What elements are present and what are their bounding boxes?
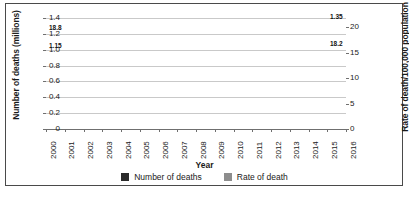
y-axis-right-tick-label: 15 — [350, 49, 376, 57]
plot-area: 18.81.151.3518.2 — [46, 18, 346, 129]
legend-label: Number of deaths — [134, 172, 202, 182]
x-axis-tick-mark — [84, 129, 85, 132]
data-label: 18.2 — [330, 40, 343, 47]
x-axis-tick-mark — [290, 129, 291, 132]
y-axis-left-tick-mark — [43, 66, 46, 67]
y-axis-right-tick-mark — [346, 104, 349, 105]
x-axis-tick-label: 2016 — [350, 141, 358, 159]
y-axis-right-tick-label: 0 — [350, 125, 376, 133]
y-axis-left-tick-label: 0.8 — [20, 62, 60, 70]
y-axis-left-tick-mark — [43, 81, 46, 82]
x-axis-tick-mark — [271, 129, 272, 132]
y-axis-right-tick-mark — [346, 53, 349, 54]
gridline — [46, 81, 346, 82]
x-axis-title: Year — [0, 160, 409, 170]
y-axis-left-tick-mark — [43, 97, 46, 98]
x-axis-tick-mark — [196, 129, 197, 132]
y-axis-right-tick-label: 5 — [350, 100, 376, 108]
x-axis-tick-label: 2011 — [256, 142, 264, 159]
data-label: 1.35 — [330, 13, 343, 20]
legend-item[interactable]: Number of deaths — [121, 172, 202, 182]
y-axis-left-tick-label: 0.6 — [20, 77, 60, 85]
y-axis-left-tick-mark — [43, 50, 46, 51]
gridline — [46, 97, 346, 98]
x-axis-tick-mark — [46, 129, 47, 132]
x-axis-tick-mark — [177, 129, 178, 132]
x-axis-tick-label: 2010 — [237, 141, 245, 159]
legend-swatch-icon — [224, 173, 232, 181]
x-axis-tick-label: 2006 — [162, 141, 170, 159]
gridline — [46, 18, 346, 19]
x-axis-tick-label: 2003 — [106, 141, 114, 159]
gridline — [46, 66, 346, 67]
x-axis-tick-mark — [234, 129, 235, 132]
chart-figure: Number of deaths (millions) Rate of deat… — [0, 0, 409, 197]
y-axis-right-tick-mark — [346, 78, 349, 79]
x-axis-tick-label: 2002 — [87, 141, 95, 159]
legend-item[interactable]: Rate of death — [224, 172, 288, 182]
x-axis-tick-mark — [65, 129, 66, 132]
x-axis-tick-label: 2012 — [275, 141, 283, 159]
y-axis-left-tick-mark — [43, 18, 46, 19]
gridline — [46, 50, 346, 51]
x-axis-tick-label: 2008 — [200, 141, 208, 159]
y-axis-right-tick-label: 10 — [350, 74, 376, 82]
gridline — [46, 34, 346, 35]
legend-swatch-icon — [121, 173, 129, 181]
x-axis-tick-label: 2005 — [143, 141, 151, 159]
x-axis-tick-mark — [346, 129, 347, 132]
y-axis-right-tick-label: 20 — [350, 23, 376, 31]
y-axis-left-tick-mark — [43, 113, 46, 114]
y-axis-left-tick-label: 1.0 — [20, 46, 60, 54]
y-axis-left-tick-label: 0 — [20, 125, 60, 133]
y-axis-left-tick-label: 0.2 — [20, 109, 60, 117]
x-axis-tick-label: 2014 — [312, 141, 320, 159]
x-axis-tick-label: 2009 — [218, 141, 226, 159]
x-axis-tick-label: 2013 — [293, 141, 301, 159]
x-axis-tick-mark — [121, 129, 122, 132]
y-axis-left-tick-label: 1.4 — [20, 14, 60, 22]
chart-legend: Number of deathsRate of death — [0, 172, 409, 182]
x-axis-tick-mark — [140, 129, 141, 132]
y-axis-right-tick-mark — [346, 27, 349, 28]
gridline — [46, 113, 346, 114]
y-axis-left-tick-label: 0.4 — [20, 93, 60, 101]
legend-label: Rate of death — [237, 172, 288, 182]
x-axis-tick-mark — [215, 129, 216, 132]
y-axis-left-tick-label: 1.2 — [20, 30, 60, 38]
x-axis-tick-label: 2004 — [125, 141, 133, 159]
x-axis-tick-label: 2000 — [50, 141, 58, 159]
x-axis-tick-label: 2001 — [68, 141, 76, 159]
x-axis-tick-mark — [252, 129, 253, 132]
x-axis-tick-mark — [159, 129, 160, 132]
x-axis-tick-mark — [327, 129, 328, 132]
y-axis-right-title: Rate of death/100,000 population — [400, 2, 409, 132]
x-axis-tick-label: 2007 — [181, 141, 189, 159]
x-axis-tick-label: 2015 — [331, 141, 339, 159]
y-axis-left-tick-mark — [43, 34, 46, 35]
x-axis-tick-mark — [102, 129, 103, 132]
x-axis-tick-mark — [309, 129, 310, 132]
